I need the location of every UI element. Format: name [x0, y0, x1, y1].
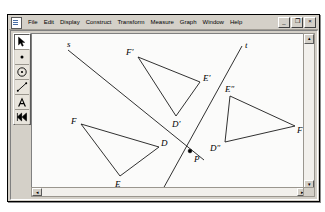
horizontal-scrollbar[interactable]: ◂ ▸: [31, 187, 308, 197]
menu-file[interactable]: File: [25, 17, 41, 28]
selection-arrow-tool[interactable]: [14, 34, 30, 50]
triangle-DEF-prime[interactable]: [138, 57, 200, 116]
line-t[interactable]: [163, 46, 242, 189]
close-icon: ×: [305, 18, 315, 25]
vertex-label-triangle-DEF-double-prime-D[interactable]: D″: [209, 143, 220, 153]
point-icon: [16, 51, 28, 63]
menu-measure[interactable]: Measure: [148, 17, 177, 28]
point-P[interactable]: [188, 149, 192, 153]
minimize-button[interactable]: _: [278, 17, 290, 28]
vertex-label-triangle-DEF-prime-D[interactable]: D': [171, 119, 181, 129]
menu-display[interactable]: Display: [57, 17, 83, 28]
circle-icon: [16, 66, 28, 78]
sketch-drawing: stFDEF'E'D'E″F″D″P: [32, 34, 307, 190]
restore-button[interactable]: ❐: [291, 17, 303, 28]
window-controls: _ ❐ ×: [278, 17, 316, 28]
vscroll-track[interactable]: [304, 34, 314, 190]
menu-bar: File Edit Display Construct Transform Me…: [9, 16, 318, 30]
vertex-label-triangle-DEF-double-prime-E[interactable]: E″: [224, 84, 234, 94]
vertex-label-triangle-DEF-prime-F[interactable]: F': [125, 47, 134, 57]
arrow-icon: [16, 36, 28, 48]
vertical-scrollbar[interactable]: ▴ ▾: [303, 33, 315, 191]
scroll-left-button[interactable]: ◂: [32, 188, 42, 196]
vertex-label-triangle-DEF-F[interactable]: F: [70, 116, 77, 126]
vertex-label-triangle-DEF-D[interactable]: D: [160, 138, 168, 148]
point-tool[interactable]: [15, 50, 29, 65]
menu-window[interactable]: Window: [200, 17, 227, 28]
resize-corner[interactable]: [303, 187, 315, 197]
tool-palette: [13, 33, 31, 125]
menu-help[interactable]: Help: [227, 17, 245, 28]
custom-transform-tool[interactable]: [15, 110, 29, 125]
straightedge-segment-tool[interactable]: [15, 80, 29, 95]
vertex-label-triangle-DEF-prime-E[interactable]: E': [202, 73, 211, 83]
label-line-s[interactable]: s: [67, 39, 71, 49]
hscroll-track[interactable]: [32, 188, 307, 196]
compass-circle-tool[interactable]: [15, 65, 29, 80]
triangle-DEF[interactable]: [81, 124, 159, 176]
screenshot-root: File Edit Display Construct Transform Me…: [0, 0, 325, 212]
menu-edit[interactable]: Edit: [41, 17, 57, 28]
segment-icon: [16, 81, 28, 93]
restore-icon: ❐: [292, 18, 302, 25]
close-button[interactable]: ×: [304, 17, 316, 28]
sketch-canvas[interactable]: stFDEF'E'D'E″F″D″P: [31, 33, 308, 191]
menu-construct[interactable]: Construct: [83, 17, 115, 28]
text-label-tool[interactable]: [15, 95, 29, 110]
label-point-P[interactable]: P: [193, 154, 200, 164]
marker-arrows-icon: [16, 111, 28, 123]
menu-graph[interactable]: Graph: [177, 17, 200, 28]
label-line-t[interactable]: t: [245, 40, 248, 50]
application-window: File Edit Display Construct Transform Me…: [7, 14, 320, 202]
triangle-DEF-double-prime[interactable]: [225, 96, 295, 142]
document-icon[interactable]: [11, 17, 22, 29]
client-area: stFDEF'E'D'E″F″D″P ▴ ▾ ◂ ▸: [10, 30, 318, 200]
menu-transform[interactable]: Transform: [114, 17, 147, 28]
scroll-up-button[interactable]: ▴: [304, 34, 314, 44]
minimize-icon: _: [279, 19, 289, 26]
text-a-icon: [16, 96, 28, 108]
